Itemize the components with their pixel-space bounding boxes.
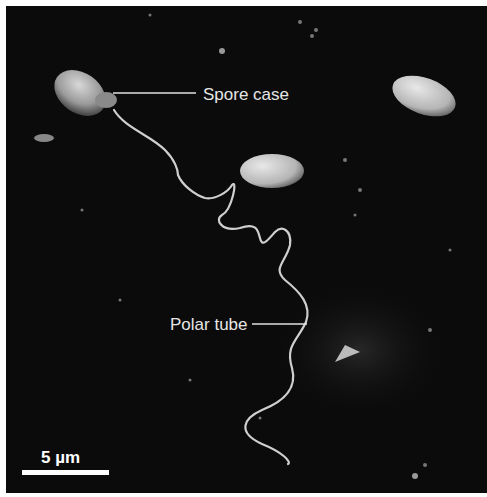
polar-tube-label: Polar tube <box>170 316 248 333</box>
spore-case-label: Spore case <box>203 86 289 103</box>
scale-bar <box>22 470 109 475</box>
scale-bar-label: 5 µm <box>41 449 80 466</box>
spore-case <box>46 61 117 126</box>
micrograph <box>6 6 487 493</box>
spore <box>240 154 304 188</box>
micrograph-image <box>6 6 487 493</box>
spore <box>387 68 461 124</box>
